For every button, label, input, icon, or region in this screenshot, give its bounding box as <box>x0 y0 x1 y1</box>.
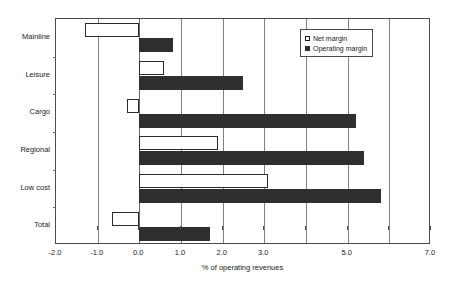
x-tick-label-1: 1.0 <box>160 248 200 257</box>
y-minor-tick-2 <box>53 94 56 95</box>
bar-cargo-net-margin <box>127 99 140 113</box>
bar-regional-operating-margin <box>139 151 364 165</box>
gridline-6 <box>389 19 390 243</box>
legend-entry-net-margin: Net margin <box>305 33 367 43</box>
bar-leisure-net-margin <box>139 61 164 75</box>
operating-margin-swatch-icon <box>305 46 310 51</box>
x-tick--2 <box>55 226 56 230</box>
y-label-total: Total <box>0 220 50 229</box>
y-minor-tick-3 <box>53 132 56 133</box>
bar-total-operating-margin <box>139 227 210 241</box>
y-minor-tick-1 <box>53 57 56 58</box>
bar-low-cost-net-margin <box>139 174 268 188</box>
x-tick-3 <box>263 226 264 230</box>
gridline-2 <box>223 19 224 243</box>
y-label-mainline: Mainline <box>0 32 50 41</box>
bar-mainline-net-margin <box>85 23 139 37</box>
x-tick-label-0: 0.0 <box>118 248 158 257</box>
y-label-cargo: Cargo <box>0 107 50 116</box>
x-tick--1 <box>97 226 98 230</box>
x-tick-2 <box>222 226 223 230</box>
x-tick-label-2: 2.0 <box>202 248 242 257</box>
bar-low-cost-operating-margin <box>139 189 381 203</box>
plot-area <box>55 18 430 244</box>
x-tick-label-3: 3.0 <box>243 248 283 257</box>
y-label-leisure: Leisure <box>0 70 50 79</box>
x-tick-label-5: 5.0 <box>327 248 367 257</box>
bar-total-net-margin <box>112 212 139 226</box>
bar-mainline-operating-margin <box>139 38 172 52</box>
legend-label-operating-margin: Operating margin <box>313 44 367 53</box>
y-minor-tick-5 <box>53 207 56 208</box>
x-tick-1 <box>180 226 181 230</box>
y-label-low-cost: Low cost <box>0 183 50 192</box>
bar-cargo-operating-margin <box>139 114 356 128</box>
gridline-3 <box>264 19 265 243</box>
legend-label-net-margin: Net margin <box>313 34 347 43</box>
chart-legend: Net margin Operating margin <box>300 29 373 57</box>
bar-chart: MainlineLeisureCargoRegionalLow costTota… <box>0 0 454 284</box>
legend-entry-operating-margin: Operating margin <box>305 43 367 53</box>
x-tick-0 <box>138 226 139 230</box>
y-minor-tick-4 <box>53 170 56 171</box>
x-tick-label--1: -1.0 <box>77 248 117 257</box>
x-tick-4 <box>305 226 306 230</box>
gridline-1 <box>181 19 182 243</box>
gridline-0 <box>139 19 140 243</box>
x-tick-6 <box>388 226 389 230</box>
bar-regional-net-margin <box>139 136 218 150</box>
net-margin-swatch-icon <box>305 36 310 41</box>
y-label-regional: Regional <box>0 145 50 154</box>
x-axis-title: % of operating revenues <box>55 263 430 272</box>
x-tick-label-7: 7.0 <box>410 248 450 257</box>
x-tick-7 <box>430 226 431 230</box>
x-tick-5 <box>347 226 348 230</box>
bar-leisure-operating-margin <box>139 76 243 90</box>
gridline--1 <box>98 19 99 243</box>
x-tick-label--2: -2.0 <box>35 248 75 257</box>
